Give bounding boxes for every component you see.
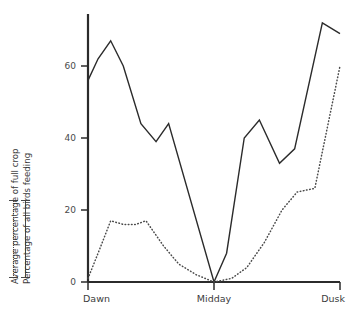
x-tick-label-midday: Midday [197, 293, 232, 304]
chart-figure: Average percentage of full crop Percenta… [0, 0, 354, 318]
x-tick-label-dawn: Dawn [83, 293, 110, 304]
y-tick-label-60: 60 [65, 61, 77, 71]
series-line-percentage-of-all-birds-feeding [88, 23, 340, 282]
chart-plot-area: 0204060 DawnMiddayDusk [0, 0, 354, 318]
x-axis-tick-labels: DawnMiddayDusk [83, 293, 345, 304]
y-tick-label-0: 0 [70, 277, 76, 287]
y-tick-label-40: 40 [65, 133, 77, 143]
series-line-average-percentage-of-full-crop [88, 66, 340, 282]
y-axis-tick-labels: 0204060 [65, 61, 77, 287]
x-tick-label-dusk: Dusk [321, 293, 345, 304]
y-tick-label-20: 20 [65, 205, 77, 215]
